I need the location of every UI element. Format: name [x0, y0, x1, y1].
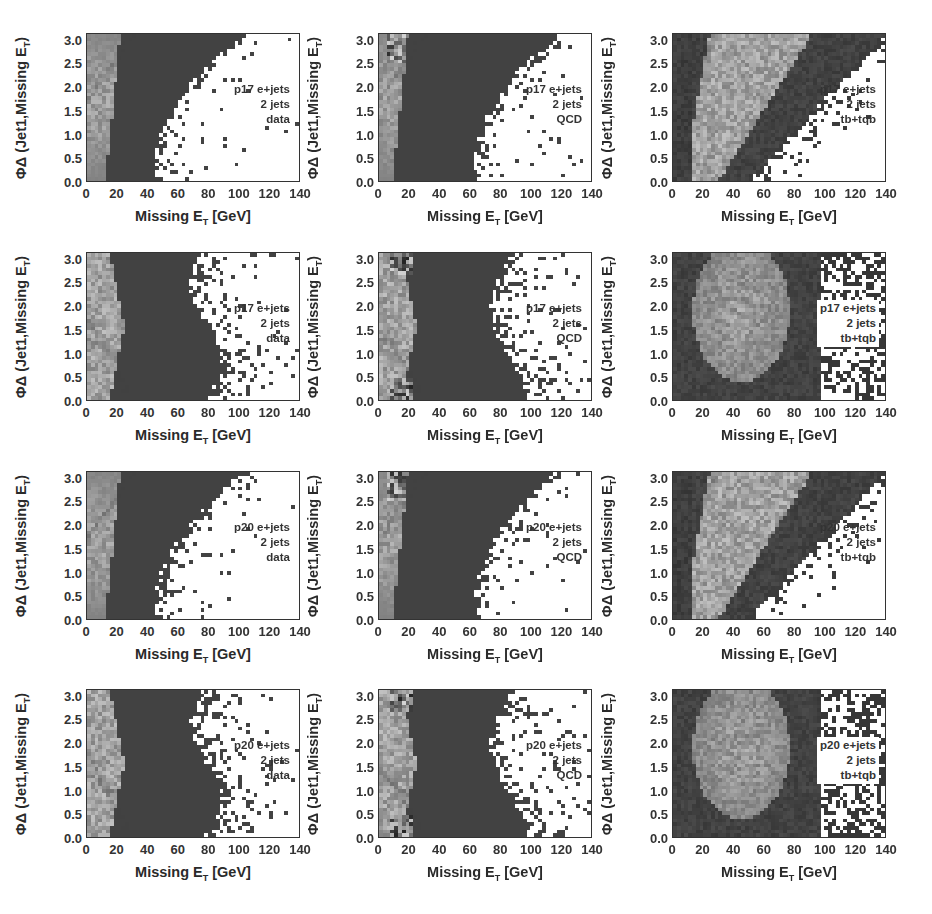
y-tick: 1.0: [64, 783, 82, 798]
x-tick: 100: [228, 624, 250, 639]
x-tick: 40: [140, 186, 154, 201]
plot-area: p17 e+jets 2 jets data: [86, 33, 300, 182]
y-tick: 0.5: [356, 589, 374, 604]
y-axis-label: ΦΔ (Jet1,Missing ET): [13, 23, 33, 193]
x-axis-ticks: 020406080100120140: [672, 624, 886, 642]
legend-jets: 2 jets: [234, 97, 290, 112]
x-tick: 60: [170, 186, 184, 201]
y-tick: 1.0: [356, 565, 374, 580]
y-tick: 1.0: [650, 346, 668, 361]
x-tick: 0: [668, 405, 675, 420]
legend-sample: p17 e+jets: [234, 82, 290, 97]
plot-area: p20 e+jets 2 jets tb+tqb: [672, 471, 886, 620]
x-axis-label: Missing ET [GeV]: [378, 427, 592, 446]
heatmap-panel-p17-tb-a: ΦΔ (Jet1,Missing ET) 0.00.51.01.52.02.53…: [586, 20, 886, 238]
x-tick: 80: [201, 624, 215, 639]
legend-process: QCD: [526, 112, 582, 127]
x-axis-ticks: 020406080100120140: [672, 405, 886, 423]
x-tick: 80: [493, 842, 507, 857]
y-tick: 1.0: [650, 565, 668, 580]
x-tick: 100: [520, 405, 542, 420]
y-tick: 1.5: [64, 322, 82, 337]
x-tick: 80: [787, 186, 801, 201]
y-tick: 3.0: [356, 688, 374, 703]
x-tick: 100: [520, 842, 542, 857]
heatmap-panel-p17-qcd-b: ΦΔ (Jet1,Missing ET) 0.00.51.01.52.02.53…: [292, 239, 592, 457]
y-tick: 2.0: [356, 299, 374, 314]
y-tick: 2.5: [356, 712, 374, 727]
x-tick: 120: [259, 405, 281, 420]
y-tick: 2.5: [64, 712, 82, 727]
y-axis-label: ΦΔ (Jet1,Missing ET): [13, 679, 33, 849]
panel-legend: p17 e+jets 2 jets tb+tqb: [817, 300, 879, 347]
y-tick: 3.0: [356, 470, 374, 485]
x-tick: 100: [228, 842, 250, 857]
x-tick: 60: [170, 405, 184, 420]
y-tick: 1.5: [356, 322, 374, 337]
x-tick: 40: [432, 842, 446, 857]
x-tick: 60: [170, 624, 184, 639]
y-tick: 0.0: [356, 175, 374, 190]
y-tick: 1.0: [356, 127, 374, 142]
y-tick: 3.0: [650, 32, 668, 47]
x-tick: 0: [82, 842, 89, 857]
legend-process: tb+tqb: [820, 768, 876, 783]
legend-sample: p17 e+jets: [820, 82, 876, 97]
x-axis-ticks: 020406080100120140: [86, 186, 300, 204]
legend-jets: 2 jets: [526, 316, 582, 331]
x-tick: 120: [259, 842, 281, 857]
y-axis-ticks: 0.00.51.01.52.02.53.0: [342, 33, 374, 182]
legend-jets: 2 jets: [234, 316, 290, 331]
x-tick: 100: [814, 405, 836, 420]
y-axis-label: ΦΔ (Jet1,Missing ET): [599, 23, 619, 193]
heatmap-panel-p20-tb-b: ΦΔ (Jet1,Missing ET) 0.00.51.01.52.02.53…: [586, 676, 886, 894]
x-tick: 120: [845, 624, 867, 639]
y-tick: 2.5: [64, 275, 82, 290]
x-tick: 20: [401, 405, 415, 420]
x-axis-ticks: 020406080100120140: [378, 405, 592, 423]
legend-sample: p20 e+jets: [526, 738, 582, 753]
legend-process: data: [234, 768, 290, 783]
x-tick: 40: [140, 624, 154, 639]
y-axis-label: ΦΔ (Jet1,Missing ET): [305, 679, 325, 849]
x-tick: 20: [109, 405, 123, 420]
y-axis-label: ΦΔ (Jet1,Missing ET): [305, 461, 325, 631]
y-tick: 2.0: [64, 518, 82, 533]
x-tick: 20: [695, 624, 709, 639]
x-axis-label: Missing ET [GeV]: [86, 864, 300, 883]
legend-process: data: [234, 112, 290, 127]
legend-jets: 2 jets: [234, 753, 290, 768]
panel-legend: p20 e+jets 2 jets QCD: [523, 737, 585, 784]
legend-process: tb+tqb: [820, 550, 876, 565]
y-axis-label: ΦΔ (Jet1,Missing ET): [599, 679, 619, 849]
x-tick: 0: [374, 624, 381, 639]
heatmap-panel-p20-data-a: ΦΔ (Jet1,Missing ET) 0.00.51.01.52.02.53…: [0, 458, 300, 676]
x-axis-ticks: 020406080100120140: [86, 842, 300, 860]
x-axis-label: Missing ET [GeV]: [86, 208, 300, 227]
y-tick: 1.0: [650, 783, 668, 798]
x-tick: 100: [228, 186, 250, 201]
y-tick: 1.5: [650, 541, 668, 556]
y-axis-ticks: 0.00.51.01.52.02.53.0: [636, 33, 668, 182]
x-tick: 120: [845, 405, 867, 420]
x-axis-label: Missing ET [GeV]: [378, 208, 592, 227]
x-axis-ticks: 020406080100120140: [672, 186, 886, 204]
x-tick: 120: [845, 186, 867, 201]
y-tick: 2.0: [650, 80, 668, 95]
y-tick: 0.5: [650, 589, 668, 604]
y-tick: 0.0: [650, 175, 668, 190]
panel-legend: p20 e+jets 2 jets data: [231, 737, 293, 784]
y-tick: 2.0: [64, 736, 82, 751]
y-tick: 1.5: [650, 322, 668, 337]
plot-area: p17 e+jets 2 jets data: [86, 252, 300, 401]
y-axis-ticks: 0.00.51.01.52.02.53.0: [636, 252, 668, 401]
heatmap-panel-p17-qcd-a: ΦΔ (Jet1,Missing ET) 0.00.51.01.52.02.53…: [292, 20, 592, 238]
y-tick: 2.5: [650, 275, 668, 290]
legend-jets: 2 jets: [234, 535, 290, 550]
y-tick: 1.5: [64, 103, 82, 118]
legend-sample: p20 e+jets: [234, 520, 290, 535]
x-tick: 120: [551, 624, 573, 639]
x-tick: 40: [726, 405, 740, 420]
x-tick: 40: [140, 405, 154, 420]
y-tick: 1.0: [64, 565, 82, 580]
